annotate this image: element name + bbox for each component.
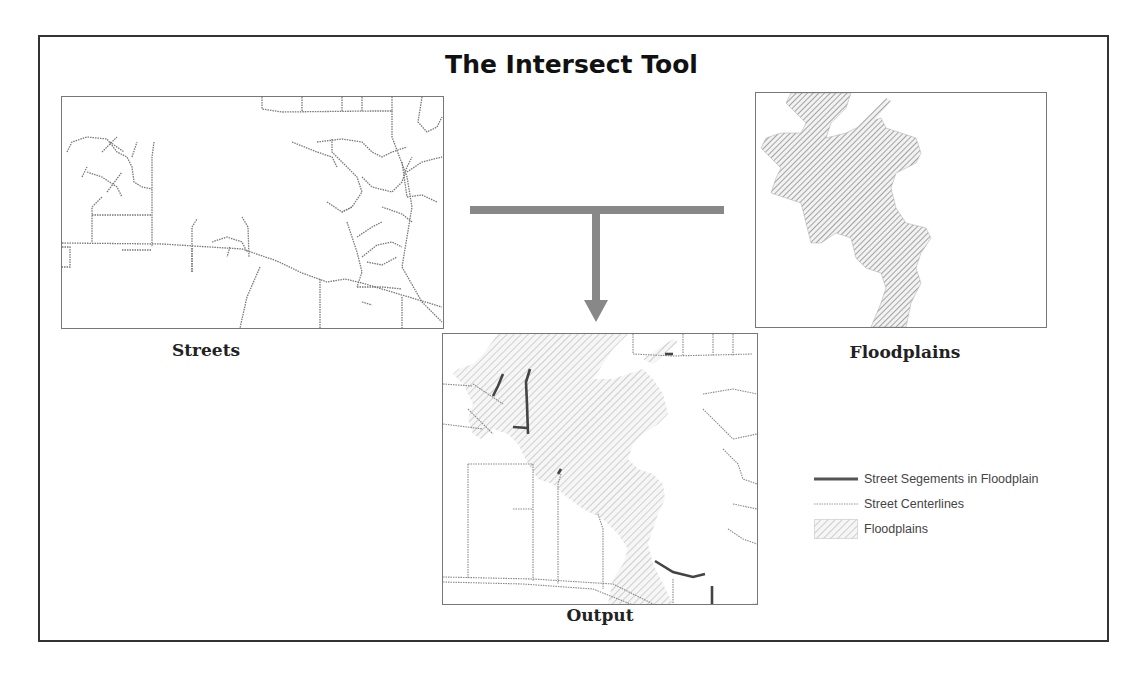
legend-label: Floodplains [864, 522, 928, 536]
legend-label: Street Centerlines [864, 497, 964, 511]
legend: Street Segements in Floodplain Street Ce… [814, 466, 1038, 541]
legend-item-street-centerlines: Street Centerlines [814, 491, 1038, 516]
hatched-box-swatch-icon [814, 519, 858, 539]
legend-label: Street Segements in Floodplain [864, 472, 1038, 486]
thick-line-swatch-icon [814, 476, 858, 482]
streets-label: Streets [146, 340, 266, 360]
page-title: The Intersect Tool [0, 50, 1143, 79]
floodplains-label: Floodplains [830, 342, 980, 362]
legend-item-street-segments: Street Segements in Floodplain [814, 466, 1038, 491]
intersect-arrow [470, 200, 730, 330]
street-lines [62, 97, 443, 328]
output-map [442, 333, 758, 605]
floodplain-polygon [756, 93, 1046, 327]
output-label: Output [540, 605, 660, 625]
dotted-line-swatch-icon [814, 502, 858, 506]
floodplains-map [755, 92, 1047, 328]
output-layers [443, 334, 757, 604]
legend-item-floodplains: Floodplains [814, 516, 1038, 541]
streets-map [61, 96, 444, 329]
